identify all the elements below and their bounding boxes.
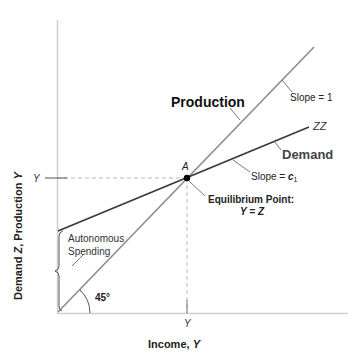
- demand-label: Demand: [282, 147, 333, 162]
- y-tick-label: Y: [33, 173, 41, 184]
- equilibrium-point: [184, 175, 190, 181]
- keynesian-cross-diagram: Demand Z, Production Y Income, Y Y Y Pro…: [0, 0, 362, 362]
- x-axis-label: Income, Y: [148, 338, 202, 350]
- slope-production-label: Slope = 1: [290, 92, 333, 103]
- y-axis-label: Demand Z, Production Y: [12, 171, 24, 300]
- production-label: Production: [171, 94, 245, 110]
- angle-label: 45°: [95, 292, 110, 303]
- angle-arc: [80, 290, 90, 313]
- equilibrium-label-line2: Y = Z: [240, 206, 265, 217]
- autonomous-label-line1: Autonomous: [68, 233, 124, 244]
- slope-demand-label: Slope = c1: [251, 171, 298, 183]
- autonomous-label-line2: Spending: [68, 246, 110, 257]
- point-a-label: A: [181, 161, 189, 172]
- demand-leader: [274, 141, 281, 150]
- zz-label: ZZ: [312, 120, 328, 132]
- equilibrium-label-line1: Equilibrium Point:: [208, 194, 294, 205]
- slopec-leader: [233, 160, 250, 172]
- autonomous-brace: [55, 231, 63, 311]
- equilibrium-leader: [189, 181, 205, 196]
- x-tick-label: Y: [184, 318, 192, 329]
- slope1-leader: [282, 80, 292, 92]
